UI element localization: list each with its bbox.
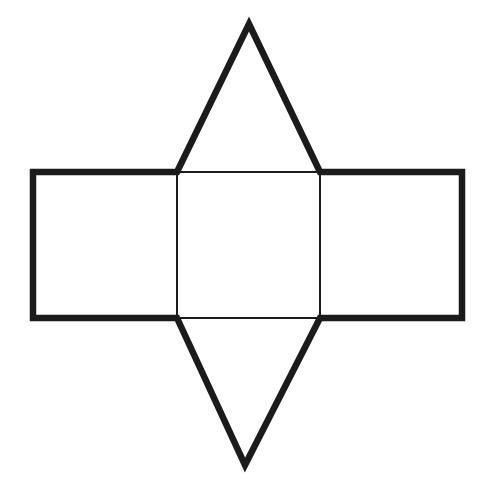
prism-net-figure xyxy=(0,0,482,491)
prism-net-figure-container xyxy=(0,0,482,491)
net-outer-boundary xyxy=(33,24,462,465)
net-center-square-fold-lines xyxy=(177,172,320,318)
